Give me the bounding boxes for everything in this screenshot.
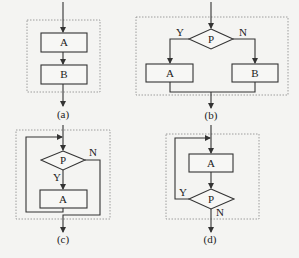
yes-label: Y: [176, 26, 184, 38]
no-label: N: [239, 26, 247, 38]
dashed-boundary: [136, 17, 288, 95]
yes-label: Y: [179, 186, 187, 198]
box-a-label: A: [207, 157, 215, 169]
box-a-label: A: [59, 193, 67, 205]
caption-d: (d): [204, 233, 217, 246]
diagram-a-sequence: A B (a): [27, 2, 100, 121]
box-b-label: B: [251, 67, 258, 79]
diagram-c-while-loop: P Y A N (c): [16, 125, 110, 246]
yes-branch-arrow: [170, 39, 189, 63]
no-label: N: [216, 206, 224, 218]
no-label: N: [89, 146, 97, 158]
yes-label: Y: [53, 171, 61, 183]
box-a-label: A: [166, 67, 174, 79]
condition-label: P: [208, 193, 214, 205]
condition-label: P: [60, 154, 66, 166]
diagram-d-do-while-loop: A P Y N (d): [166, 125, 259, 246]
box-b-label: B: [60, 68, 67, 80]
caption-a: (a): [57, 108, 70, 121]
caption-b: (b): [205, 109, 218, 122]
box-a-label: A: [60, 36, 68, 48]
merge-line: [170, 82, 255, 92]
condition-label: P: [208, 33, 214, 45]
flowchart-figure: A B (a) P Y A N B (b) P Y A: [0, 0, 299, 258]
diagram-b-selection: P Y A N B (b): [136, 2, 288, 122]
no-branch-arrow: [233, 39, 255, 63]
caption-c: (c): [57, 233, 70, 246]
